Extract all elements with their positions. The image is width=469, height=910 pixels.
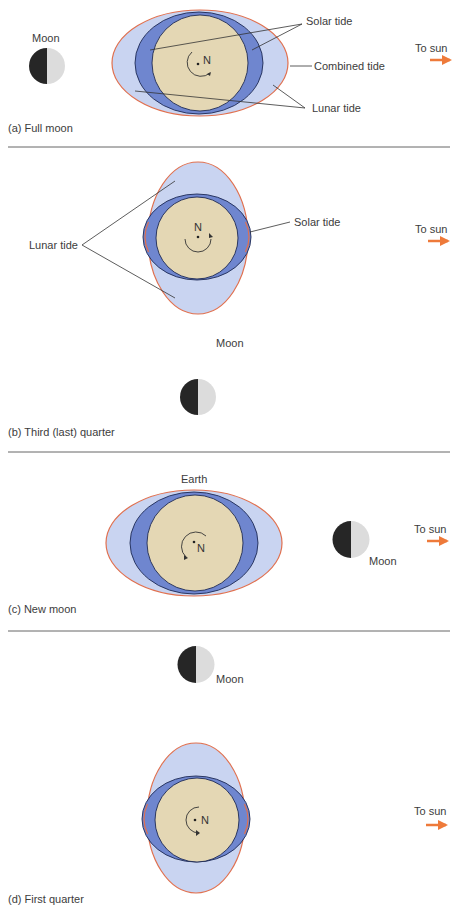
to-sun-label: To sun [414,523,446,535]
combined-tide-label: Combined tide [314,60,385,72]
earth [156,197,238,279]
panel-caption: (b) Third (last) quarter [8,426,115,438]
panel-third-quarter: N Lunar tide Solar tide To sun Moon (b) … [8,162,448,438]
earth [152,15,248,111]
panel-first-quarter: Moon N To sun (d) First quarter [8,646,446,905]
to-sun-label: To sun [415,223,447,235]
moon-icon [29,48,65,84]
moon-label: Moon [216,337,244,349]
moon-icon [180,379,216,415]
earth-label: Earth [181,473,207,485]
north-label: N [203,54,211,66]
panel-caption: (c) New moon [8,603,76,615]
to-sun-label: To sun [414,805,446,817]
lunar-tide-leader [273,85,305,108]
panel-caption: (a) Full moon [8,122,73,134]
moon-icon [178,646,215,683]
panel-caption: (d) First quarter [8,893,84,905]
to-sun-label: To sun [415,42,447,54]
north-label: N [201,814,209,826]
north-pole-dot [193,541,196,544]
earth [147,495,243,591]
north-label: N [194,221,202,233]
moon-label: Moon [216,673,244,685]
moon-label: Moon [369,555,397,567]
earth [155,778,239,862]
panel-new-moon: Earth N Moon To sun (c) New moon [8,473,447,615]
panel-full-moon: N Moon Solar tide Combined tide Lunar ti… [8,10,450,134]
lunar-tide-label: Lunar tide [312,102,361,114]
solar-tide-label: Solar tide [294,216,340,228]
north-label: N [197,542,205,554]
north-pole-dot [194,819,197,822]
north-pole-dot [197,236,200,239]
solar-tide-label: Solar tide [306,15,352,27]
moon-label: Moon [32,32,60,44]
north-pole-dot [197,63,200,66]
tides-diagram: N Moon Solar tide Combined tide Lunar ti… [0,0,469,910]
moon-icon [333,521,370,558]
solar-tide-leader [250,222,290,232]
lunar-tide-label: Lunar tide [29,239,78,251]
